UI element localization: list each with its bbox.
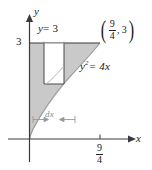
line-equation-label: y= 3 [38, 23, 58, 34]
dx-label: dx [45, 110, 54, 119]
fraction-9-over-4: 9 4 [96, 143, 103, 165]
y-axis-label: y [34, 6, 39, 17]
point-fraction-9-over-4: 9 4 [109, 19, 116, 41]
left-paren: ( [101, 20, 106, 40]
point-y-value: 3 [122, 25, 127, 35]
line-equation-value: = 3 [43, 22, 58, 34]
curve-equation-label: y2= 4x [80, 60, 110, 72]
y-axis-arrowhead [26, 14, 33, 22]
figure-container: y x 3 y= 3 y2= 4x dx 9 4 ( 9 4 , 3 ) [0, 0, 152, 170]
right-paren: ) [129, 20, 134, 40]
fraction-denominator: 4 [96, 155, 103, 165]
shaded-region [30, 43, 101, 139]
point-comma: , [117, 25, 120, 35]
point-coordinate-label: ( 9 4 , 3 ) [99, 17, 136, 43]
x-axis-label: x [136, 133, 141, 144]
x-axis-tick-label-9-4: 9 4 [95, 143, 104, 165]
x-axis-arrowhead [128, 135, 136, 142]
representative-rectangle-fill [44, 44, 64, 85]
point-fraction-numerator: 9 [109, 19, 116, 29]
fraction-numerator: 9 [96, 143, 103, 153]
point-fraction-denominator: 4 [109, 31, 116, 41]
curve-equation-rest: = 4x [89, 60, 110, 72]
y-axis-tick-label-3: 3 [16, 36, 22, 47]
point-coordinate-inner: 9 4 , 3 [108, 19, 127, 41]
